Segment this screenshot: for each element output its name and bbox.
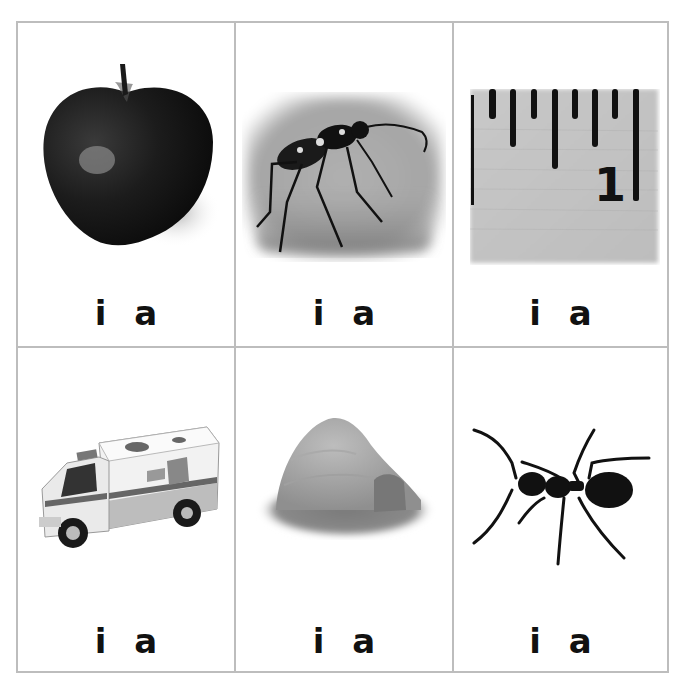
choice-a[interactable]: a	[352, 296, 375, 330]
cell-ambulance: i a	[18, 348, 236, 671]
ant-icon	[464, 418, 659, 568]
cell-igloo: i a	[236, 348, 454, 671]
picture-grid: i a	[16, 21, 669, 673]
choice-i[interactable]: i	[95, 624, 107, 658]
choice-a[interactable]: a	[352, 624, 375, 658]
choice-i[interactable]: i	[95, 296, 107, 330]
ruler-number: 1	[594, 158, 626, 212]
letter-choices: i a	[454, 296, 667, 330]
letter-choices: i a	[236, 624, 452, 658]
choice-a[interactable]: a	[134, 296, 157, 330]
igloo-icon	[256, 410, 436, 540]
ruler-icon: 1	[470, 89, 660, 265]
cell-ant: i a	[454, 348, 667, 671]
apple-icon	[35, 62, 220, 247]
choice-i[interactable]: i	[529, 624, 541, 658]
choice-i[interactable]: i	[529, 296, 541, 330]
choice-a[interactable]: a	[134, 624, 157, 658]
choice-i[interactable]: i	[313, 296, 325, 330]
letter-choices: i a	[18, 296, 234, 330]
choice-a[interactable]: a	[569, 296, 592, 330]
letter-choices: i a	[454, 624, 667, 658]
ambulance-icon	[37, 421, 221, 551]
cell-apple: i a	[18, 23, 236, 348]
letter-choices: i a	[18, 624, 234, 658]
beetle-icon	[242, 92, 446, 262]
choice-a[interactable]: a	[569, 624, 592, 658]
cell-beetle: i a	[236, 23, 454, 348]
choice-i[interactable]: i	[313, 624, 325, 658]
letter-choices: i a	[236, 296, 452, 330]
cell-ruler: 1 i a	[454, 23, 667, 348]
